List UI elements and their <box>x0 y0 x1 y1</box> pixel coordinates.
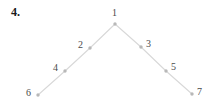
graph-node-label-6: 6 <box>26 88 31 98</box>
graph-edge <box>166 71 192 94</box>
figure-container: 4. 1234567 <box>0 0 214 112</box>
node-layer <box>36 22 193 96</box>
graph-edge <box>65 48 90 71</box>
graph-edge <box>90 24 115 48</box>
graph-node-label-1: 1 <box>112 8 117 18</box>
graph-edge <box>115 24 141 47</box>
graph-edge <box>141 47 166 71</box>
graph-node-7 <box>190 92 193 95</box>
graph-node-label-2: 2 <box>78 40 83 50</box>
graph-canvas <box>0 0 214 112</box>
edge-layer <box>38 24 192 95</box>
graph-node-3 <box>139 45 142 48</box>
graph-node-2 <box>88 46 91 49</box>
graph-node-label-5: 5 <box>171 62 176 72</box>
graph-node-label-3: 3 <box>146 39 151 49</box>
graph-node-1 <box>113 22 116 25</box>
graph-edge <box>38 71 65 95</box>
graph-node-label-4: 4 <box>53 63 58 73</box>
graph-node-5 <box>164 69 167 72</box>
graph-node-label-7: 7 <box>197 87 202 97</box>
graph-node-4 <box>63 69 66 72</box>
graph-node-6 <box>36 93 39 96</box>
